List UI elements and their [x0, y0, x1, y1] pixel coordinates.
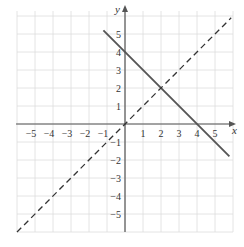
coordinate-plane: −5−4−3−2−11234554321−1−2−3−4−5 x y: [0, 0, 244, 247]
y-tick-label: 5: [116, 29, 121, 40]
y-tick-label: −5: [110, 209, 121, 220]
y-tick-label: 1: [116, 101, 121, 112]
data-lines: [17, 18, 231, 232]
y-tick-label: 3: [116, 65, 121, 76]
axes: [16, 5, 236, 232]
y-axis-arrow-icon: [122, 5, 128, 12]
x-tick-label: −2: [80, 128, 91, 139]
y-tick-label: 4: [116, 47, 121, 58]
x-axis-label: x: [231, 124, 237, 136]
y-tick-label: 2: [116, 83, 121, 94]
x-tick-label: 2: [159, 128, 164, 139]
x-tick-label: −4: [44, 128, 55, 139]
y-tick-label: −1: [110, 137, 121, 148]
x-tick-label: 4: [195, 128, 200, 139]
x-tick-label: 3: [177, 128, 182, 139]
x-tick-label: −5: [26, 128, 37, 139]
line-y-equals-4-minus-x: [103, 30, 229, 156]
y-tick-label: −2: [110, 155, 121, 166]
x-tick-label: −3: [62, 128, 73, 139]
x-tick-label: 5: [213, 128, 218, 139]
x-tick-label: −1: [98, 128, 109, 139]
x-tick-label: 1: [141, 128, 146, 139]
y-axis-label: y: [114, 3, 120, 15]
y-tick-label: −3: [110, 173, 121, 184]
y-tick-label: −4: [110, 191, 121, 202]
